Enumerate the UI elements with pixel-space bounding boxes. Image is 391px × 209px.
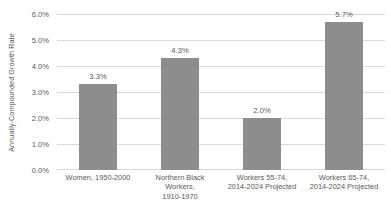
x-category-label-line: Workers, [141, 182, 219, 191]
bar-chart: Annually-Compounded Growth Rate 6.0% 5.0… [0, 0, 391, 209]
bar-series: 3.3% 4.3% 2.0% 5.7% [57, 14, 385, 170]
x-category-label-line: 1910-1970 [141, 192, 219, 201]
bar[interactable]: 5.7% [325, 22, 363, 170]
y-tick-label: 5.0% [32, 36, 49, 45]
x-category-label-line: Women, 1950-2000 [59, 173, 137, 182]
x-category-label-line: 2014-2024 Projected [305, 182, 383, 191]
bar-value-label: 5.7% [335, 10, 352, 19]
x-category-label-line: Workers 55-74, [223, 173, 301, 182]
y-tick-label: 3.0% [32, 88, 49, 97]
y-tick-label: 4.0% [32, 61, 49, 70]
x-category-label: Northern Black Workers, 1910-1970 [139, 173, 221, 201]
bar-value-label: 2.0% [253, 106, 270, 115]
y-tick-label: 6.0% [32, 10, 49, 19]
bar[interactable]: 2.0% [243, 118, 281, 170]
plot-area: 3.3% 4.3% 2.0% 5.7% [57, 14, 385, 170]
x-category-label: Women, 1950-2000 [57, 173, 139, 201]
bar-slot: 3.3% [57, 14, 139, 170]
bar-slot: 5.7% [303, 14, 385, 170]
bar[interactable]: 3.3% [79, 84, 117, 170]
y-tick-label: 2.0% [32, 114, 49, 123]
x-category-label-line: 2014-2024 Projected [223, 182, 301, 191]
x-category-label-line: Workers 65-74, [305, 173, 383, 182]
bar-value-label: 3.3% [89, 72, 106, 81]
y-axis-tick-labels: 6.0% 5.0% 4.0% 3.0% 2.0% 1.0% 0.0% [0, 14, 52, 170]
y-tick-label: 0.0% [32, 166, 49, 175]
x-category-label-line: Northern Black [141, 173, 219, 182]
x-category-label: Workers 55-74, 2014-2024 Projected [221, 173, 303, 201]
x-category-label: Workers 65-74, 2014-2024 Projected [303, 173, 385, 201]
bar-slot: 4.3% [139, 14, 221, 170]
bar-slot: 2.0% [221, 14, 303, 170]
y-tick-label: 1.0% [32, 139, 49, 148]
x-axis-category-labels: Women, 1950-2000 Northern Black Workers,… [57, 173, 385, 201]
bar-value-label: 4.3% [171, 46, 188, 55]
bar[interactable]: 4.3% [161, 58, 199, 170]
